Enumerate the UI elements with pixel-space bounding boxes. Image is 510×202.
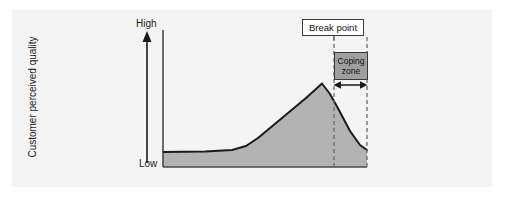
axis-label-low: Low xyxy=(139,159,157,169)
axis-label-high: High xyxy=(136,19,157,29)
figure-root: High Low Customer perceived quality Brea… xyxy=(0,0,510,202)
break-point-callout: Break point xyxy=(302,19,364,36)
coping-zone-label-line1: Coping xyxy=(338,56,365,66)
coping-zone-label-line2: zone xyxy=(342,66,360,76)
y-axis-title: Customer perceived quality xyxy=(28,35,38,159)
quality-area-fill xyxy=(163,84,367,168)
break-point-label: Break point xyxy=(309,22,357,33)
up-arrow-icon xyxy=(143,31,152,42)
chart-canvas xyxy=(0,0,510,202)
coping-zone-callout: Coping zone xyxy=(334,52,368,80)
